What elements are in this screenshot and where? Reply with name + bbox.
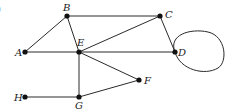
edge-c-e (79, 16, 160, 52)
edge-c-d (160, 16, 175, 52)
graph-diagram: ) ABCDEFGH (0, 0, 233, 112)
node-label-g: G (75, 100, 83, 111)
node-g (76, 94, 81, 99)
node-label-d: D (177, 47, 186, 58)
node-label-f: F (143, 75, 152, 86)
node-label-c: C (165, 9, 173, 20)
edge-a-b (25, 16, 67, 52)
node-c (157, 13, 162, 18)
node-label-e: E (76, 37, 85, 48)
node-h (22, 94, 27, 99)
corner-fragment: ) (0, 3, 1, 14)
node-label-h: H (13, 92, 23, 103)
edges-group (25, 16, 175, 97)
edge-f-g (79, 80, 139, 97)
node-d (172, 49, 177, 54)
node-b (64, 13, 69, 18)
node-a (22, 49, 27, 54)
nodes-group (22, 13, 177, 99)
node-label-b: B (62, 2, 70, 13)
node-e (76, 49, 81, 54)
node-f (136, 77, 141, 82)
node-label-a: A (14, 47, 22, 58)
edge-e-f (79, 52, 139, 80)
